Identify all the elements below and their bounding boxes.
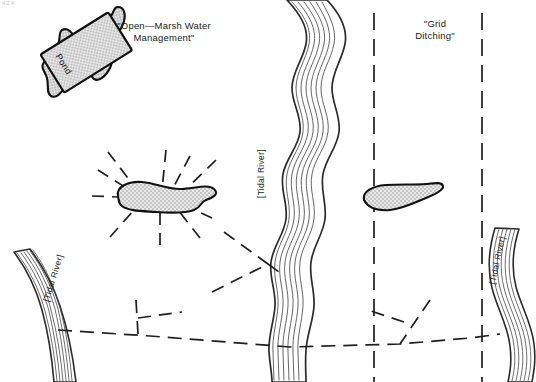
omwm-ditch-ww [92, 196, 118, 197]
tidal-river-center [269, 0, 346, 382]
omwm-ditch-sw [110, 210, 134, 237]
tidal-river-left [14, 249, 76, 382]
grid-ditching-label: "Grid Ditching" [399, 18, 471, 42]
omwm-ditch-se [178, 210, 200, 238]
ditch-branch-left-arm [138, 312, 182, 318]
ditch-converge-upper [224, 232, 268, 264]
grid-pond [364, 183, 443, 210]
omwm-ditch-nw [108, 152, 134, 186]
omwm-pond [118, 182, 216, 213]
marsh-management-figure: "Open—Marsh Water Management" "Grid Ditc… [0, 0, 536, 382]
tidal-river-center-label: [Tidal River] [256, 149, 266, 198]
omwm-pond-group [92, 150, 216, 245]
omwm-label: "Open—Marsh Water Management" [108, 20, 220, 44]
omwm-ditch-n [162, 150, 166, 190]
page-marker: 424 [2, 0, 15, 6]
figure-canvas [0, 0, 536, 382]
ditch-branch-left-stub [136, 300, 138, 334]
ditch-converge-lower [212, 264, 268, 292]
omwm-ditch-ne [172, 156, 190, 190]
ditch-branch-right-stub [400, 300, 430, 344]
